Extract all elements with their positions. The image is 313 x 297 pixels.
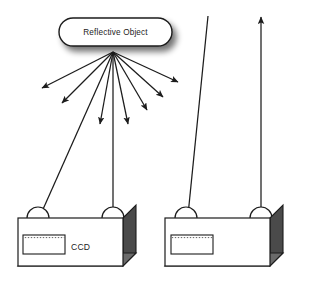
left-unit-lens-right-icon	[102, 207, 124, 218]
detected-rays	[28, 16, 261, 245]
right-unit-ccd-pattern-icon	[171, 235, 213, 254]
reflective-object[interactable]: Reflective Object	[59, 18, 172, 46]
scatter-ray-right	[113, 52, 147, 110]
scatter-ray-far-left	[42, 52, 113, 88]
reflective-object-label: Reflective Object	[83, 28, 148, 37]
left-unit-ccd-pattern-icon	[23, 235, 65, 254]
left-unit-ccd[interactable]	[23, 235, 65, 254]
right-unit-ccd[interactable]	[171, 235, 213, 254]
diagram-canvas: Reflective Object	[0, 0, 313, 297]
diagram-svg: Reflective Object	[0, 0, 313, 297]
left-sensor-unit[interactable]: CCD	[18, 205, 136, 274]
scatter-ray-far-right	[113, 52, 178, 82]
ccd-label: CCD	[71, 242, 90, 252]
right-unit-lens-right-icon	[250, 207, 272, 218]
right-unit-lens-left-icon	[175, 207, 197, 218]
left-unit-lens-left-icon	[27, 207, 49, 218]
right-sensor-unit[interactable]	[165, 205, 283, 266]
scattered-ray-fan	[42, 52, 178, 124]
